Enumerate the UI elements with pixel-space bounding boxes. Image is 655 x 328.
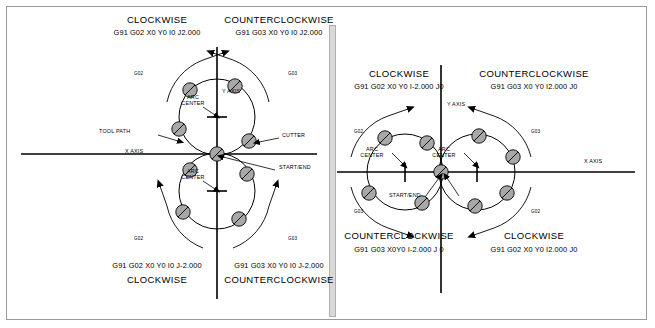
left-bottom-left-code: G91 G02 X0 Y0 I0 J-2.000 [112,262,201,270]
left-x-axis-label: X AXIS [125,149,143,155]
cutter-callout: CUTTER [282,133,305,139]
figure-frame: CLOCKWISE G91 G02 X0 Y0 I0 J2.000 COUNTE… [6,6,647,320]
right-top-left-direction: CLOCKWISE [369,69,429,79]
right-arc-center-right-callout: ARC CENTER [432,147,455,158]
tool-path-callout: TOOL PATH [99,129,130,135]
right-panel-geometry [337,65,635,293]
left-bottom-left-direction: CLOCKWISE [127,275,187,285]
right-bottom-right-code: G91 G02 X0 Y0 I2.000 J0 [491,246,578,254]
left-top-right-code: G91 G03 X0 Y0 I0 J2.000 [236,29,323,37]
left-arc-center-lower-callout: ARC CENTER [181,169,204,180]
left-arc-center-upper-callout: ARC CENTER [181,95,204,106]
left-top-left-direction: CLOCKWISE [127,15,187,25]
right-bottom-left-direction: COUNTERCLOCKWISE [344,231,454,241]
right-arc-tag-left-upper: G02 [354,130,363,135]
left-arc-tag-upper-left: G02 [134,72,143,77]
right-bottom-left-code: G91 G03 X0Y0 I-2.000 J 0 [354,246,444,254]
left-start-end-callout: START/END [279,165,311,171]
left-arc-tag-upper-right: G03 [288,72,297,77]
right-arc-tag-left-lower: G03 [354,210,363,215]
right-x-axis-label: X AXIS [584,159,602,165]
right-top-left-code: G91 G02 X0 Y0 I-2.000 J0 [354,83,443,91]
left-y-axis-label: Y AXIS [222,89,240,95]
right-start-end-callout: START/END [389,193,421,199]
left-top-left-code: G91 G02 X0 Y0 I0 J2.000 [114,29,201,37]
left-arc-tag-lower-left: G02 [134,237,143,242]
right-arc-center-left-callout: ARC CENTER [360,147,383,158]
right-y-axis-label: Y AXIS [447,102,465,108]
left-bottom-right-direction: COUNTERCLOCKWISE [224,275,334,285]
right-top-right-direction: COUNTERCLOCKWISE [479,69,589,79]
left-arc-tag-lower-right: G03 [288,237,297,242]
figure-canvas: CLOCKWISE G91 G02 X0 Y0 I0 J2.000 COUNTE… [0,0,655,328]
right-arc-tag-right-lower: G02 [531,210,540,215]
right-arc-tag-right-upper: G03 [531,130,540,135]
left-top-right-direction: COUNTERCLOCKWISE [224,15,334,25]
right-bottom-right-direction: CLOCKWISE [504,231,564,241]
right-top-right-code: G91 G03 X0 Y0 I2.000 J0 [491,83,578,91]
left-bottom-right-code: G91 G03 X0 Y0 I0 J-2.000 [234,262,323,270]
